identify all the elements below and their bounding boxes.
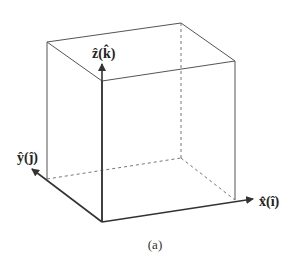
x-axis-label: x̂(î) — [259, 194, 280, 210]
cube-hidden-edges — [47, 23, 235, 200]
hidden-edge-bottom-right — [181, 158, 235, 200]
y-axis-arrow — [32, 169, 102, 222]
cube-coordinate-diagram: ẑ(k̂) ŷ(ĵ) x̂(î) (a) — [0, 0, 300, 272]
axes — [32, 64, 253, 222]
y-axis-label: ŷ(ĵ) — [17, 150, 38, 166]
figure-caption: (a) — [148, 237, 162, 252]
edge-top-back — [47, 23, 181, 42]
cube-visible-edges — [47, 23, 235, 222]
edge-top-right — [181, 23, 235, 61]
hidden-edge-bottom-back — [47, 158, 181, 179]
z-axis-label: ẑ(k̂) — [92, 44, 116, 62]
edge-top-front — [102, 61, 235, 81]
x-axis-arrow — [102, 199, 253, 222]
